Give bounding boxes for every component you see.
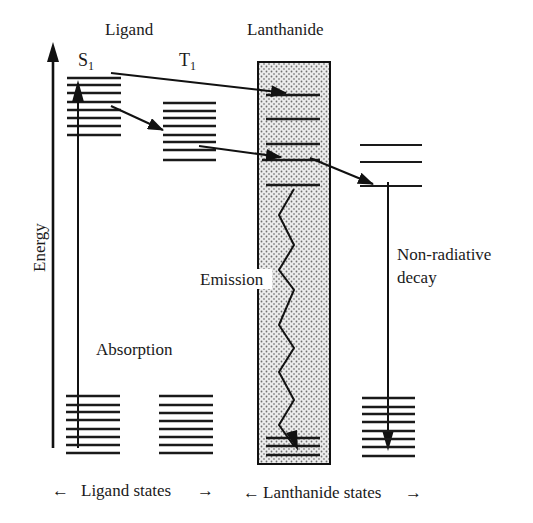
lanthanide-box bbox=[258, 62, 330, 464]
right-upper-levels bbox=[360, 145, 422, 186]
t1-label: T1 bbox=[179, 50, 196, 73]
nonradiative-label: Non-radiative bbox=[397, 245, 491, 264]
footer-lanthanide-left-arrow: ← bbox=[243, 483, 260, 502]
footer-ligand-right-arrow: → bbox=[197, 481, 214, 500]
energy-axis-label: Energy bbox=[30, 223, 49, 272]
lanthanide-title: Lanthanide bbox=[247, 20, 323, 39]
footer-ligand-states: Ligand states bbox=[81, 481, 171, 500]
footer-lanthanide-states: Lanthanide states bbox=[263, 483, 382, 502]
ligand-title: Ligand bbox=[105, 20, 154, 39]
t1-levels bbox=[163, 103, 216, 160]
s1-label: S1 bbox=[78, 50, 94, 73]
footer-ligand-left-arrow: ← bbox=[52, 481, 69, 500]
decay-label: decay bbox=[397, 268, 437, 287]
energy-level-diagram: Ligand Lanthanide S1 T1 Energy bbox=[0, 0, 533, 523]
ligand-ground-levels-right bbox=[159, 396, 213, 453]
emission-label: Emission bbox=[200, 270, 264, 289]
nonradiative-decay-arrow bbox=[382, 182, 394, 451]
footer-lanthanide-right-arrow: → bbox=[405, 483, 422, 502]
ligand-ground-levels-left bbox=[66, 396, 120, 453]
absorption-label: Absorption bbox=[96, 340, 173, 359]
